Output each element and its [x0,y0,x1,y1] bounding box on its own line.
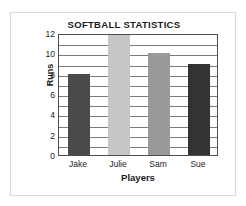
y-axis-tick-labels: 024681012 [39,34,55,156]
x-axis-tick-labels: JakeJulieSamSue [58,159,218,171]
x-axis-tick-label: Jake [58,159,98,169]
chart-title: SOFTBALL STATISTICS [11,19,237,30]
y-axis-tick-label: 10 [39,50,55,58]
x-axis-title: Players [58,172,218,183]
bar[interactable] [188,64,210,156]
y-axis-tick-label: 6 [39,91,55,99]
x-axis-tick-label: Sue [178,159,218,169]
y-axis-tick-label: 4 [39,111,55,119]
x-axis-tick-label: Julie [98,159,138,169]
plot-area [58,34,218,156]
y-axis-tick-label: 2 [39,132,55,140]
x-axis-tick-label: Sam [138,159,178,169]
y-axis-tick-label: 12 [39,30,55,38]
y-axis-tick-label: 0 [39,152,55,160]
bar[interactable] [108,34,130,155]
y-axis-tick-label: 8 [39,71,55,79]
bars-layer [59,35,217,155]
bar[interactable] [148,53,170,155]
chart-figure-frame: SOFTBALL STATISTICS Runs 024681012 JakeJ… [10,12,236,196]
bar[interactable] [68,74,90,155]
